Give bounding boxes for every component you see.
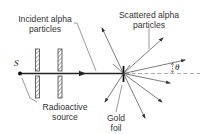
scattered-label-line2: particles: [113, 20, 185, 30]
scattered-label-line1: Scattered alpha: [113, 10, 185, 20]
source-label-line1: Radioactive: [37, 102, 93, 112]
source-symbol-label: S: [14, 58, 19, 68]
rutherford-scattering-diagram: Incident alpha particles Scattered alpha…: [0, 0, 203, 134]
gold-foil-label: Gold foil: [101, 113, 131, 133]
radioactive-source-label: Radioactive source: [37, 102, 93, 122]
theta-angle-label: θ: [175, 62, 179, 72]
scattered-alpha-label: Scattered alpha particles: [113, 10, 185, 30]
incident-label-line2: particles: [12, 24, 78, 34]
incident-beam: [20, 71, 123, 76]
foil-label-line1: Gold: [101, 113, 131, 123]
angle-theta-marker: [171, 63, 174, 73]
source-label-line2: source: [37, 112, 93, 122]
source-dot: [18, 72, 22, 76]
foil-label-line2: foil: [101, 123, 131, 133]
incident-alpha-label: Incident alpha particles: [12, 14, 78, 34]
incident-label-line1: Incident alpha: [12, 14, 78, 24]
